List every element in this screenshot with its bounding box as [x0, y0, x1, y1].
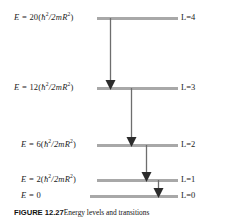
energy-level-diagram: E=20(ħ2/2mR2) E=12(ħ2/2mR2) E=6(ħ2/2mR2)…: [0, 0, 225, 218]
equals-sign: =: [22, 82, 27, 92]
level-line-L4: [97, 17, 178, 20]
transition-arrows-group: [0, 0, 225, 218]
energy-symbol: E: [14, 12, 19, 22]
level-line-L3: [97, 87, 178, 90]
equals-sign: =: [29, 139, 34, 149]
figure-caption: FIGURE 12.27Energy levels and transition…: [14, 208, 225, 218]
quantum-value: 4: [191, 12, 195, 22]
quantum-label-L1: L=1: [181, 174, 195, 184]
level-line-L2: [97, 144, 178, 147]
energy-coefficient: 20(: [29, 12, 41, 22]
quantum-label-L3: L=3: [181, 82, 195, 92]
figure-caption-number: FIGURE 12.27: [14, 208, 64, 217]
energy-denominator: /2mR: [49, 82, 68, 92]
equals-sign: =: [29, 190, 34, 200]
transition-arrow-2-to-1: [142, 145, 152, 182]
equals-sign: =: [29, 174, 34, 184]
energy-symbol: E: [21, 139, 26, 149]
quantum-label-L2: L=2: [181, 139, 195, 149]
energy-label-L0: E=0: [21, 190, 41, 200]
paren-close: ): [71, 12, 74, 22]
energy-coefficient: 0: [36, 190, 40, 200]
energy-symbol: E: [14, 82, 19, 92]
quantum-label-L4: L=4: [181, 12, 195, 22]
energy-label-L2: E=6(ħ2/2mR2): [21, 139, 76, 149]
energy-label-L1: E=2(ħ2/2mR2): [21, 174, 76, 184]
energy-denominator: /2mR: [49, 12, 68, 22]
energy-coefficient: 12(: [29, 82, 41, 92]
quantum-label-L0: L=0: [181, 190, 195, 200]
paren-close: ): [73, 139, 76, 149]
paren-close: ): [73, 174, 76, 184]
quantum-value: 0: [191, 190, 195, 200]
energy-label-L4: E=20(ħ2/2mR2): [14, 12, 74, 22]
energy-label-L3: E=12(ħ2/2mR2): [14, 82, 74, 92]
energy-symbol: E: [21, 190, 26, 200]
quantum-value: 1: [191, 174, 195, 184]
transition-arrow-4-to-3: [106, 18, 116, 90]
quantum-value: 2: [191, 139, 195, 149]
figure-caption-text: Energy levels and transitions: [64, 208, 149, 217]
energy-denominator: /2mR: [51, 139, 70, 149]
paren-close: ): [71, 82, 74, 92]
energy-coefficient: 6(: [36, 139, 43, 149]
level-line-L1: [97, 179, 178, 182]
energy-symbol: E: [21, 174, 26, 184]
transition-arrow-3-to-2: [127, 88, 137, 147]
equals-sign: =: [22, 12, 27, 22]
energy-denominator: /2mR: [51, 174, 70, 184]
level-line-L0: [90, 195, 178, 198]
quantum-value: 3: [191, 82, 195, 92]
energy-coefficient: 2(: [36, 174, 43, 184]
